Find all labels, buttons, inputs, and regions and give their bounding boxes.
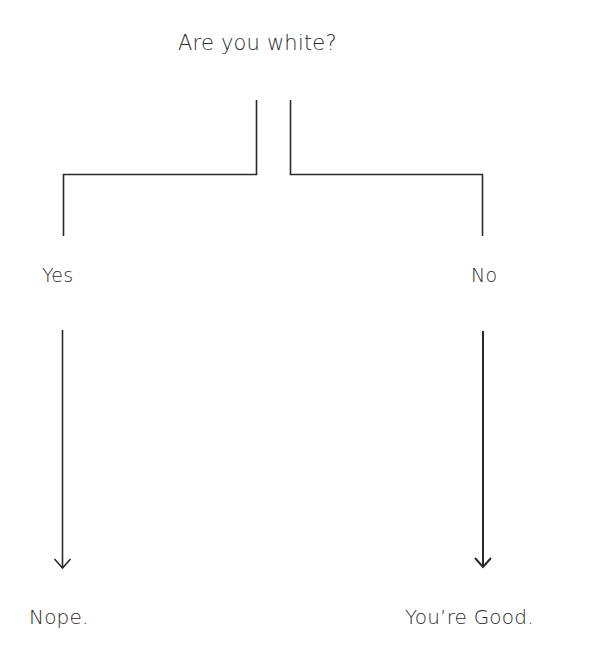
arrow-down-icon	[475, 331, 491, 567]
branch-label-yes: Yes	[42, 264, 73, 286]
outcome-no: You’re Good.	[405, 605, 534, 629]
outcome-yes: Nope.	[29, 605, 89, 629]
connector-lines	[0, 0, 607, 672]
arrow-down-icon	[55, 330, 71, 568]
connector-yes	[64, 100, 257, 236]
connector-no	[291, 100, 483, 236]
branch-label-no: No	[471, 264, 497, 286]
